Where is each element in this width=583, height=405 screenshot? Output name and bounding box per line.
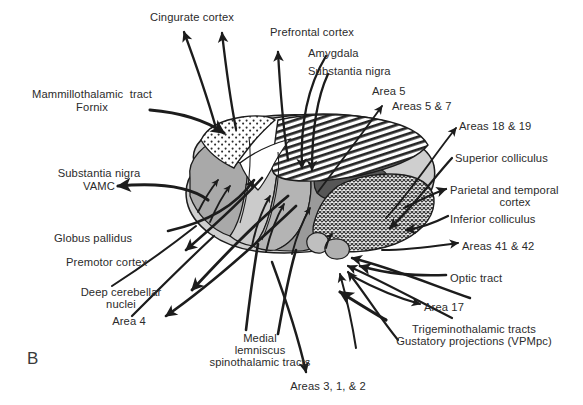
label-parietal-temporal-cortex: Parietal and temporal [450,184,583,197]
arrow-cingulate-b [222,33,236,129]
label-area-17: Area 17 [424,301,490,314]
label-medial: Medial [205,332,315,345]
label-cingulate-cortex: Cingurate cortex [132,11,252,24]
label-premotor-cortex: Premotor cortex [66,256,182,269]
label-trigeminothalamic: Trigeminothalamic tracts [386,323,562,336]
arrow-medial-lemniscus-a [246,244,258,330]
label-gustatory-projections: Gustatory projections (VPMpc) [376,335,572,348]
label-areas-41-42: Areas 41 & 42 [462,240,566,253]
label-vamc: VAMC [36,180,162,193]
label-inferior-colliculus: Inferior colliculus [450,213,574,226]
label-prefrontal-cortex: Prefrontal cortex [270,26,382,39]
label-globus-pallidus: Globus pallidus [54,232,168,245]
label-fornix: Fornix [16,101,168,114]
arrow-cingulate-a [184,32,216,128]
label-area-5: Area 5 [372,85,432,98]
label-deep-cerebellar: Deep cerebellar [62,286,180,299]
label-amygdala: Amygdala [308,47,392,60]
panel-letter: B [27,349,39,369]
label-substantia-nigra-left: Substantia nigra [36,167,162,180]
thalamus-body [186,114,435,259]
label-area-4: Area 4 [96,315,162,328]
label-substantia-nigra-top: Substantia nigra [308,65,422,78]
label-areas-3-1-2: Areas 3, 1, & 2 [276,380,380,393]
label-areas-18-19: Areas 18 & 19 [459,120,559,133]
label-deep-cerebellar-2: nuclei [62,298,180,311]
label-spinothalamic-tracts: spinothalamic tracts [205,356,315,369]
label-mammillothalamic-tract: Mammillothalamic tract [16,88,168,101]
label-areas-5-7: Areas 5 & 7 [392,100,472,113]
label-superior-colliculus: Superior colliculus [455,152,583,165]
label-optic-tract: Optic tract [450,272,534,285]
label-lemniscus: lemniscus [205,344,315,357]
figure-canvas: Cingurate cortex Prefrontal cortex Amygd… [0,0,583,405]
arrow-fan-4 [340,274,356,348]
label-parietal-temporal-cortex-2: cortex [450,196,580,209]
